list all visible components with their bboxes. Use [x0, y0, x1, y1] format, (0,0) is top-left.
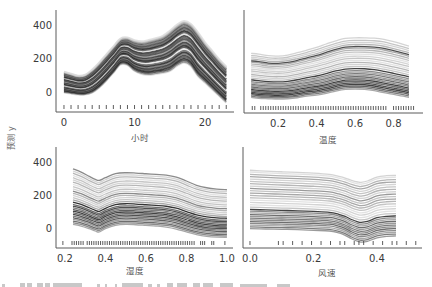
y-tick-label: 400 [33, 157, 52, 168]
x-tick-labels: 0.00.20.4 [242, 253, 385, 264]
ice-curves [73, 169, 227, 237]
y-tick-label: 200 [33, 190, 52, 201]
shared-y-axis-label: 预测 y [6, 126, 16, 150]
x-tick-labels: 01020 [61, 117, 212, 128]
y-tick-label: 400 [33, 20, 52, 31]
x-tick-label: 10 [128, 117, 141, 128]
x-axis-label: 风速 [318, 268, 336, 278]
x-tick-label: 0 [61, 117, 67, 128]
y-tick-label: 200 [33, 53, 52, 64]
x-tick-label: 20 [199, 117, 212, 128]
rug-ticks [64, 105, 226, 109]
subplot-humidity: 0.20.40.60.81.0 0200400 湿度 [33, 147, 235, 276]
y-tick-labels: 0200400 [33, 20, 52, 98]
ice-plot-figure: 预测 y 01020 0200400 小时 0.20.40.60.8 温度 0.… [0, 0, 432, 287]
x-axis-label: 湿度 [126, 266, 144, 276]
x-tick-label: 0.4 [97, 253, 113, 264]
x-tick-label: 0.4 [369, 253, 385, 264]
x-tick-label: 1.0 [219, 253, 235, 264]
subplot-windspeed: 0.00.20.4 风速 [242, 147, 422, 278]
ice-curves [251, 38, 409, 99]
ice-curves [64, 21, 226, 103]
y-tick-label: 0 [46, 87, 52, 98]
x-tick-labels: 0.20.40.60.8 [270, 118, 401, 129]
subplot-temperature: 0.20.40.60.8 温度 [244, 10, 423, 145]
x-tick-label: 0.6 [138, 253, 154, 264]
ice-curves [250, 170, 396, 242]
subplot-hour: 01020 0200400 小时 [33, 10, 234, 143]
x-tick-label: 0.2 [306, 253, 322, 264]
rug-ticks [252, 106, 413, 110]
x-tick-label: 0.2 [57, 253, 73, 264]
x-tick-label: 0.2 [270, 118, 286, 129]
x-tick-label: 0.0 [242, 253, 258, 264]
x-axis-label: 小时 [131, 133, 149, 143]
x-tick-label: 0.8 [178, 253, 194, 264]
x-tick-labels: 0.20.40.60.81.0 [57, 253, 235, 264]
x-tick-label: 0.4 [309, 118, 325, 129]
y-tick-labels: 0200400 [33, 157, 52, 234]
y-tick-label: 0 [46, 223, 52, 234]
x-tick-label: 0.6 [347, 118, 363, 129]
truncated-caption [2, 283, 290, 287]
rug-ticks [63, 241, 225, 245]
x-axis-label: 温度 [319, 135, 337, 145]
x-tick-label: 0.8 [386, 118, 402, 129]
rug-ticks [250, 241, 416, 245]
